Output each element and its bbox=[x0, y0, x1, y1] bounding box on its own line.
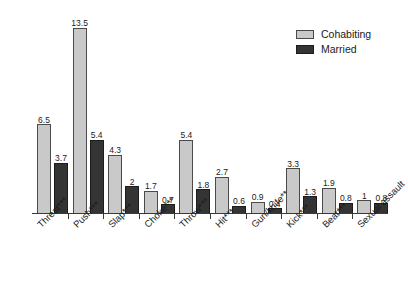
bar-cohabiting: 4.3 bbox=[108, 155, 122, 214]
legend-label-cohabiting: Cohabiting bbox=[321, 29, 371, 40]
x-axis-tick bbox=[103, 214, 104, 219]
bar-cohabiting: 5.4 bbox=[179, 140, 193, 214]
x-axis-tick bbox=[174, 214, 175, 219]
bar-value-label: 1.3 bbox=[304, 188, 316, 197]
bar-value-label: 5.4 bbox=[91, 131, 103, 140]
x-axis-tick bbox=[281, 214, 282, 219]
x-axis-tick bbox=[68, 214, 69, 219]
bar-value-label: 0.9 bbox=[252, 193, 264, 202]
bar-value-label: 3.3 bbox=[287, 160, 299, 169]
x-axis-tick bbox=[139, 214, 140, 219]
x-axis-tick bbox=[317, 214, 318, 219]
legend-item-cohabiting: Cohabiting bbox=[296, 28, 371, 40]
x-axis-tick bbox=[210, 214, 211, 219]
chart-legend: Cohabiting Married bbox=[296, 28, 371, 58]
bar-value-label: 1.8 bbox=[197, 181, 209, 190]
legend-swatch-married bbox=[296, 45, 314, 54]
bar-value-label: 6.5 bbox=[38, 116, 50, 125]
bar-value-label: 2.7 bbox=[216, 168, 228, 177]
x-axis-tick bbox=[352, 214, 353, 219]
bar-value-label: 5.4 bbox=[180, 131, 192, 140]
bar-value-label: 3.7 bbox=[55, 154, 67, 163]
bar-value-label: 4.3 bbox=[109, 146, 121, 155]
legend-swatch-cohabiting bbox=[296, 30, 314, 39]
bar-value-label: 2 bbox=[130, 178, 135, 187]
bar-value-label: 0.6 bbox=[233, 197, 245, 206]
bar-value-label: 1.9 bbox=[323, 179, 335, 188]
bar-cohabiting: 6.5 bbox=[37, 124, 51, 214]
bar-value-label: 13.5 bbox=[71, 19, 88, 28]
bar-chart-figure: 6.53.713.55.44.321.70.75.41.82.70.60.90.… bbox=[0, 0, 408, 287]
bar-value-label: 1 bbox=[362, 192, 367, 201]
bar-value-label: 1.7 bbox=[145, 182, 157, 191]
bar-cohabiting: 13.5 bbox=[73, 28, 87, 214]
legend-item-married: Married bbox=[296, 43, 371, 55]
legend-label-married: Married bbox=[321, 44, 357, 55]
x-axis-tick bbox=[246, 214, 247, 219]
